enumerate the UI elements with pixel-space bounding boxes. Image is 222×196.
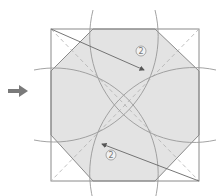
- svg-text:2: 2: [108, 151, 113, 160]
- svg-text:2: 2: [138, 47, 143, 56]
- pointer-arrow-icon: [8, 85, 28, 97]
- step-label-top: 2: [136, 46, 146, 56]
- octagon-construction-diagram: 2 2: [0, 0, 222, 196]
- step-label-bottom: 2: [106, 150, 116, 160]
